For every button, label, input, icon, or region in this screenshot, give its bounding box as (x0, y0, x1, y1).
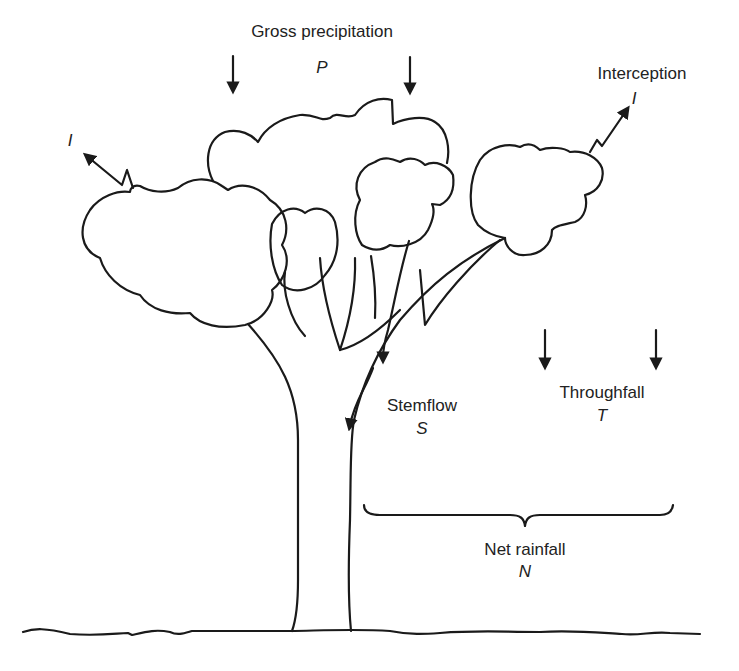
tree-trunk (248, 238, 505, 631)
throughfall-symbol: T (592, 406, 612, 426)
throughfall-arrows (545, 330, 656, 364)
net-rainfall-symbol: N (515, 562, 535, 582)
interception-label: Interception (582, 64, 702, 84)
rainfall-partition-diagram: Gross precipitation P Interception I I S… (0, 0, 739, 671)
stemflow-symbol: S (412, 419, 432, 439)
interception-symbol-right: I (624, 89, 644, 109)
gross-precipitation-symbol: P (312, 58, 332, 78)
net-rainfall-brace (364, 505, 673, 526)
stemflow-label: Stemflow (372, 396, 472, 416)
net-rainfall-label: Net rainfall (465, 540, 585, 560)
ground-line (23, 629, 700, 635)
gross-precipitation-label: Gross precipitation (212, 22, 432, 42)
gross-precipitation-text: Gross precipitation (251, 22, 393, 41)
tree-canopy (83, 99, 603, 327)
throughfall-label: Throughfall (542, 383, 662, 403)
interception-symbol-left: I (60, 131, 80, 151)
